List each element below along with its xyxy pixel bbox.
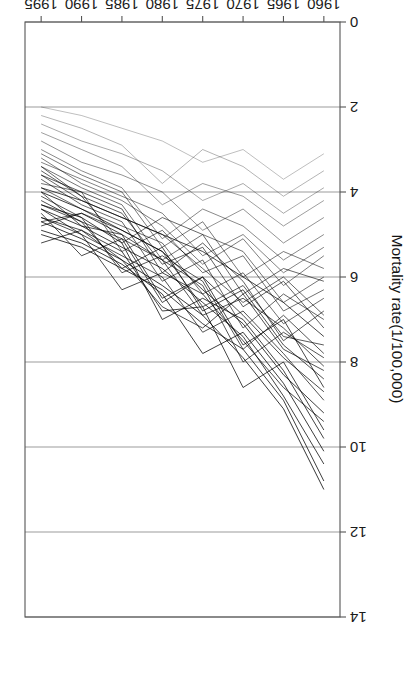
series-line <box>41 218 324 371</box>
chart-figure: 1960196519701975198019851990199502468101… <box>0 0 419 700</box>
chart-screenshot: 1960196519701975198019851990199502468101… <box>0 0 419 700</box>
y-tick-label: 4 <box>350 185 392 200</box>
series-line <box>41 107 324 179</box>
y-tick-label: 0 <box>350 15 392 30</box>
plot-frame <box>25 22 340 617</box>
series-line <box>41 124 324 213</box>
y-tick-label: 6 <box>350 270 392 285</box>
y-tick-label: 12 <box>350 525 392 540</box>
series-line <box>41 158 324 286</box>
y-axis-title: Mortality rate(1/100,000) <box>389 235 405 404</box>
y-tick-label: 10 <box>350 440 392 455</box>
y-tick-label: 14 <box>350 610 392 625</box>
y-axis-title-wrapper: Mortality rate(1/100,000) <box>389 235 405 404</box>
series-line <box>41 196 324 353</box>
y-tick-label: 2 <box>350 100 392 115</box>
series-line <box>41 230 324 451</box>
y-tick-label: 8 <box>350 355 392 370</box>
x-tick-label: 1995 <box>16 0 66 12</box>
series-line <box>41 235 324 482</box>
series-line <box>41 230 324 430</box>
series-line <box>41 213 324 345</box>
series-line <box>41 192 324 413</box>
